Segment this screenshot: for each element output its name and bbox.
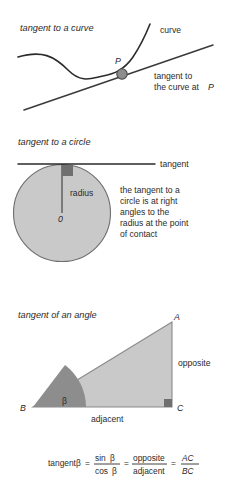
circle-note-line-2: circle is at right <box>120 196 178 206</box>
circle-note-line-5: of contact <box>120 229 158 239</box>
formula-frac3-denominator: BC <box>182 466 195 476</box>
adjacent-side-label: adjacent <box>91 414 124 424</box>
triangle-right-angle-marker <box>164 399 172 407</box>
tangent-figure: tangent to a curve P curve tangent to th… <box>0 0 227 490</box>
panel-curve-heading: tangent to a curve <box>20 23 94 33</box>
tangent-formula: tangent β = sin β cos β = opposite adjac… <box>48 453 199 476</box>
formula-lead: tangent <box>48 458 77 468</box>
circle-note-line-3: angles to the <box>120 207 169 217</box>
formula-lead-symbol: β <box>76 458 81 468</box>
figure-page: tangent to a curve P curve tangent to th… <box>0 0 227 490</box>
circle-note-block: the tangent to a circle is at right angl… <box>120 185 189 239</box>
point-p-marker <box>117 69 127 79</box>
curve-label: curve <box>160 25 181 35</box>
curve-tangent-annotation-line2-text: the curve at <box>154 82 200 92</box>
formula-frac1-numerator-symbol: β <box>110 453 115 463</box>
panel-tangent-to-curve: tangent to a curve P curve tangent to th… <box>18 23 214 110</box>
panel-tangent-of-angle: tangent of an angle A B C β opposite adj… <box>18 310 211 476</box>
formula-equals-1: = <box>85 458 90 468</box>
formula-frac2-numerator: opposite <box>133 453 165 463</box>
curve-tangent-annotation-line1: tangent to <box>154 71 192 81</box>
formula-frac1-numerator: sin <box>95 453 106 463</box>
curve-tangent-annotation-line2: the curve at P <box>154 82 214 92</box>
formula-equals-2: = <box>124 458 129 468</box>
panel-tangent-to-circle: tangent to a circle radius 0 tangent the… <box>14 137 190 262</box>
opposite-side-label: opposite <box>178 358 211 368</box>
circle-note-line-1: the tangent to a <box>120 185 180 195</box>
radius-label: radius <box>70 188 93 198</box>
angle-beta-label: β <box>62 396 67 406</box>
circle-right-angle-marker <box>62 165 73 176</box>
vertex-b-label: B <box>20 403 26 413</box>
circle-center-label: 0 <box>58 214 63 224</box>
formula-frac1-denominator: cos <box>95 466 108 476</box>
formula-equals-3: = <box>171 458 176 468</box>
formula-frac2-denominator: adjacent <box>133 466 165 476</box>
point-p-label: P <box>115 56 121 66</box>
panel-angle-heading: tangent of an angle <box>18 310 97 320</box>
circle-note-line-4: radius at the point <box>120 218 189 228</box>
formula-frac3-numerator: AC <box>181 453 195 463</box>
curve-tangent-annotation-point-ref: P <box>208 82 214 92</box>
vertex-c-label: C <box>177 403 184 413</box>
formula-frac1-denominator-symbol: β <box>112 466 117 476</box>
panel-circle-heading: tangent to a circle <box>18 137 91 147</box>
vertex-a-label: A <box>173 312 180 322</box>
angle-beta-wedge <box>33 365 86 407</box>
circle-tangent-label: tangent <box>160 159 189 169</box>
